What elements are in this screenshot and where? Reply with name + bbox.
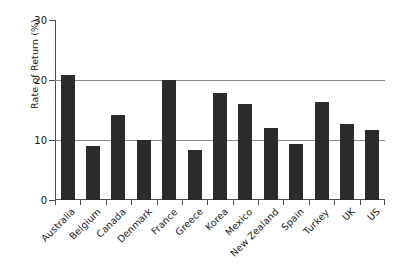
x-axis-labels: AustraliaBelgiumCanadaDenmarkFranceGreec… <box>55 206 395 274</box>
bar <box>188 150 202 200</box>
bar-slot <box>309 20 334 200</box>
bar <box>289 144 303 200</box>
bar-slot <box>106 20 131 200</box>
x-tick <box>182 200 183 205</box>
bar <box>111 115 125 200</box>
bar <box>86 146 100 200</box>
bar-chart: Rate of Return (%) 0102030 AustraliaBelg… <box>0 0 402 274</box>
x-tick <box>283 200 284 205</box>
bar-slot <box>80 20 105 200</box>
bar-slot <box>207 20 232 200</box>
y-tick-label: 30 <box>34 15 47 26</box>
x-tick <box>80 200 81 205</box>
bar-slot <box>131 20 156 200</box>
x-tick <box>233 200 234 205</box>
y-tick-label: 0 <box>41 195 47 206</box>
x-tick-label: UK <box>340 206 357 223</box>
bar <box>264 128 278 200</box>
y-tick-label: 20 <box>34 75 47 86</box>
bar-slot <box>182 20 207 200</box>
x-tick <box>334 200 335 205</box>
x-tick <box>384 200 385 205</box>
bar-slot <box>157 20 182 200</box>
bar <box>213 93 227 200</box>
x-tick <box>55 200 56 205</box>
bar-slot <box>233 20 258 200</box>
bar-slot <box>55 20 80 200</box>
bar <box>315 102 329 200</box>
x-tick <box>207 200 208 205</box>
x-tick <box>360 200 361 205</box>
bar-slot <box>360 20 385 200</box>
x-tick <box>309 200 310 205</box>
bar <box>365 130 379 200</box>
x-tick-label: Greece <box>173 206 205 238</box>
plot-area: 0102030 <box>55 20 385 200</box>
x-tick <box>131 200 132 205</box>
x-tick <box>106 200 107 205</box>
bar <box>340 124 354 200</box>
x-tick <box>258 200 259 205</box>
bar <box>238 104 252 200</box>
bar <box>61 75 75 200</box>
x-tick <box>157 200 158 205</box>
x-tick-label: Turkey <box>301 206 331 236</box>
x-tick-label: US <box>365 206 382 223</box>
bar-slot <box>258 20 283 200</box>
y-tick-label: 10 <box>34 135 47 146</box>
bar-series <box>55 20 385 200</box>
bar-slot <box>334 20 359 200</box>
bar <box>162 80 176 200</box>
bar <box>137 140 151 200</box>
bar-slot <box>283 20 308 200</box>
